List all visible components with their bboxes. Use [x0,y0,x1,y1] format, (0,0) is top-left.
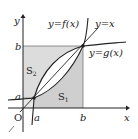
origin-pointer [9,126,14,132]
label-line: y=x [94,18,115,29]
y-arrow-icon [21,14,26,18]
origin-label: O [14,112,22,123]
intersection-b [81,44,85,48]
tick-b-x: b [80,112,86,123]
label-g: y=g(x) [88,47,123,58]
x-arrow-icon [126,106,130,111]
tick-a-y: a [15,91,21,102]
label-f: y=f(x) [47,18,79,29]
function-inverse-diagram: y x O a b a b y=f(x) y=x y=g(x) S2 S1 [0,0,138,139]
x-axis-label: x [124,112,130,123]
y-axis-label: y [13,15,20,26]
intersection-a [32,96,36,100]
diagram-svg: y x O a b a b y=f(x) y=x y=g(x) S2 S1 [0,0,138,139]
tick-a-x: a [34,112,40,123]
tick-b-y: b [15,41,21,52]
